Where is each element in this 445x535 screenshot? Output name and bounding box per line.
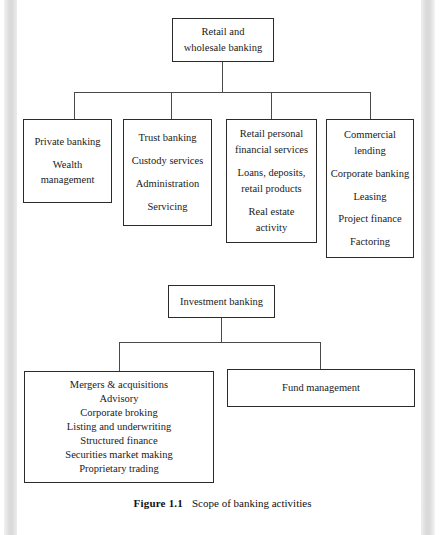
node-label-line: Real estate — [249, 205, 295, 219]
connector-drop-retail-personal — [271, 92, 272, 119]
connector-root1-bus — [74, 92, 371, 93]
connector-drop-private-banking — [74, 92, 75, 119]
node-label-line: retail products — [241, 182, 301, 196]
connector-drop-commercial-lending — [370, 92, 371, 119]
node-label-line: Administration — [136, 177, 200, 191]
node-label-line: Private banking — [34, 135, 100, 149]
node-label-line: Proprietary trading — [79, 462, 159, 476]
node-label-line: Servicing — [147, 200, 187, 214]
node-label-line: Leasing — [353, 190, 386, 204]
node-label-line: activity — [256, 221, 288, 235]
node-label-line: Project finance — [338, 212, 401, 226]
node-label-line: Factoring — [350, 235, 390, 249]
connector-root2-bus — [119, 342, 321, 343]
node-investment-banking[interactable]: Investment banking — [168, 285, 275, 318]
connector-drop-investment-activities — [119, 342, 120, 371]
page-edge-shading-right — [421, 0, 435, 535]
node-label-line: Retail personal — [240, 127, 303, 141]
node-trust-banking[interactable]: Trust banking Custody services Administr… — [123, 119, 212, 226]
node-label-line: Corporate broking — [80, 406, 157, 420]
node-label-line: Custody services — [132, 154, 203, 168]
connector-root2-stem — [221, 318, 222, 342]
node-label-line: Trust banking — [138, 131, 196, 145]
node-label-line: lending — [354, 144, 386, 158]
node-label-line: Wealth — [53, 158, 82, 172]
node-label-line: Advisory — [99, 392, 138, 406]
node-retail-wholesale-banking[interactable]: Retail and wholesale banking — [172, 18, 274, 62]
node-fund-management[interactable]: Fund management — [227, 369, 415, 407]
node-label-line: Mergers & acquisitions — [70, 378, 168, 392]
connector-drop-trust-banking — [171, 92, 172, 119]
node-label-line: management — [41, 173, 95, 187]
node-retail-personal-financial-services[interactable]: Retail personal financial services Loans… — [226, 119, 317, 243]
node-label-line: Retail and — [202, 25, 245, 39]
node-label-line: Investment banking — [180, 295, 263, 309]
node-label-line: Securities market making — [65, 448, 172, 462]
page-edge-shading-left — [4, 0, 17, 535]
node-label-line: Commercial — [344, 128, 396, 142]
node-label-line: wholesale banking — [184, 41, 262, 55]
node-commercial-lending[interactable]: Commercial lending Corporate banking Lea… — [326, 119, 414, 258]
figure-number: Figure 1.1 — [134, 497, 183, 509]
node-label-line: financial services — [235, 143, 308, 157]
connector-drop-fund-management — [320, 342, 321, 369]
figure-page: Retail and wholesale banking Private ban… — [0, 0, 445, 535]
node-private-banking[interactable]: Private banking Wealth management — [23, 119, 112, 203]
node-label-line: Corporate banking — [331, 167, 409, 181]
node-label-line: Fund management — [282, 381, 360, 395]
node-label-line: Listing and underwriting — [67, 420, 171, 434]
node-label-line: Loans, deposits, — [238, 166, 306, 180]
node-label-line: Structured finance — [80, 434, 157, 448]
connector-root1-stem — [222, 62, 223, 92]
figure-caption: Figure 1.1Scope of banking activities — [0, 497, 445, 509]
node-investment-banking-activities[interactable]: Mergers & acquisitions Advisory Corporat… — [24, 371, 214, 483]
figure-title: Scope of banking activities — [192, 497, 311, 509]
